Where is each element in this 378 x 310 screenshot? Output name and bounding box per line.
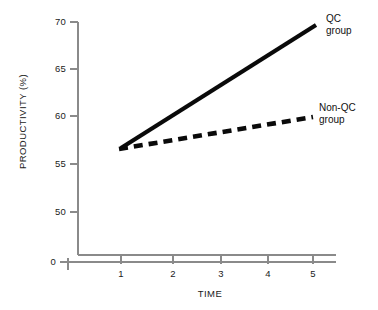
series-line-qc-group bbox=[121, 25, 316, 148]
series-label-qc-group-line2: group bbox=[326, 25, 352, 37]
chart-plot-area bbox=[0, 0, 378, 310]
x-tick-label-5: 5 bbox=[303, 268, 323, 279]
series-label-qc-group: QC group bbox=[326, 13, 352, 36]
x-axis-title: TIME bbox=[180, 288, 240, 299]
y-tick-label-65: 65 bbox=[34, 63, 66, 74]
x-tick-label-2: 2 bbox=[163, 268, 183, 279]
series-label-qc-group-line1: QC bbox=[326, 13, 352, 25]
chart-figure: 70 65 60 55 50 0 1 2 3 4 5 PRODUCTIVITY … bbox=[0, 0, 378, 310]
x-tick-label-3: 3 bbox=[211, 268, 231, 279]
series-label-non-qc-group-line2: group bbox=[319, 114, 356, 126]
series-label-non-qc-group-line1: Non-QC bbox=[319, 102, 356, 114]
x-tick-label-4: 4 bbox=[258, 268, 278, 279]
y-tick-label-0: 0 bbox=[34, 256, 56, 267]
y-tick-label-55: 55 bbox=[34, 158, 66, 169]
series-label-non-qc-group: Non-QC group bbox=[319, 102, 356, 125]
y-tick-label-70: 70 bbox=[34, 16, 66, 27]
y-axis-title: PRODUCTIVITY (%) bbox=[17, 67, 28, 177]
y-tick-label-60: 60 bbox=[34, 110, 66, 121]
y-tick-label-50: 50 bbox=[34, 206, 66, 217]
x-tick-label-1: 1 bbox=[111, 268, 131, 279]
